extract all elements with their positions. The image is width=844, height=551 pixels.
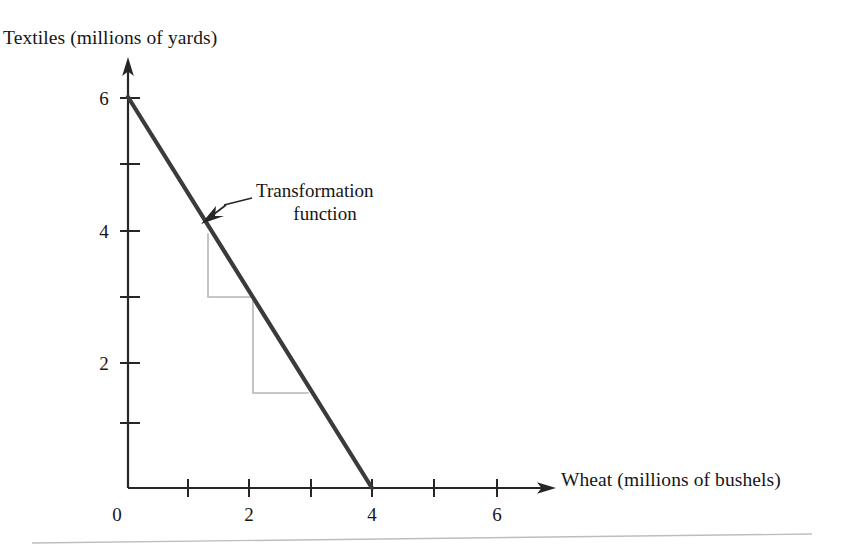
slope-step-construction: [208, 234, 308, 393]
x-axis: [128, 482, 556, 494]
production-possibility-frontier-chart: Textiles (millions of yards) Wheat (mill…: [0, 0, 844, 551]
annotation-label-line2: function: [256, 203, 394, 224]
x-tick-label-2: 2: [237, 504, 261, 526]
transformation-function-curve: [128, 97, 372, 488]
annotation-label-line1: Transformation: [256, 180, 374, 201]
x-tick-label-6: 6: [485, 504, 509, 526]
y-tick-label-2: 2: [92, 353, 116, 375]
annotation-leader: [201, 198, 252, 224]
x-tick-label-0: 0: [105, 504, 129, 526]
x-axis-label: Wheat (millions of bushels): [561, 470, 781, 490]
annotation-leader-line: [224, 198, 252, 205]
y-axis-ticks: [120, 98, 140, 423]
page-bottom-rule: [32, 534, 812, 543]
y-tick-label-4: 4: [92, 221, 116, 243]
y-tick-label-6: 6: [92, 88, 116, 110]
x-tick-label-4: 4: [360, 504, 384, 526]
y-axis-label: Textiles (millions of yards): [3, 28, 217, 48]
